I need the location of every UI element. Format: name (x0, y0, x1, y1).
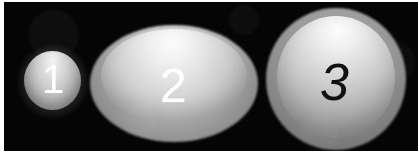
object-2-label: 2 (160, 62, 187, 110)
dark-background-plate: 1 2 3 (4, 2, 418, 151)
object-3-label: 3 (320, 56, 349, 108)
image-canvas: 1 2 3 (0, 0, 418, 160)
object-1-label: 1 (42, 59, 64, 99)
